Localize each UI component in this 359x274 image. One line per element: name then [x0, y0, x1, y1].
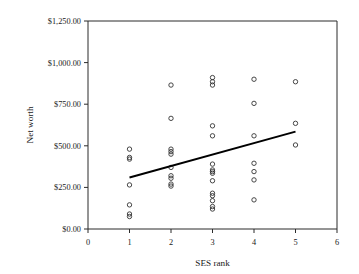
data-point [252, 178, 256, 182]
y-tick-label: $500.00 [54, 142, 81, 151]
data-point [252, 169, 256, 173]
y-axis-title: Net worth [25, 106, 35, 143]
data-point [210, 199, 214, 203]
data-point [169, 83, 173, 87]
data-point [293, 80, 297, 84]
data-point [252, 161, 256, 165]
y-tick-label: $1,000.00 [48, 59, 81, 68]
y-axis: $0.00$250.00$500.00$750.00$1,000.00$1,25… [48, 17, 88, 234]
data-point [210, 179, 214, 183]
x-tick-label: 1 [127, 238, 131, 247]
data-point [127, 147, 131, 151]
data-point [127, 183, 131, 187]
scatter-plot-figure: $0.00$250.00$500.00$750.00$1,000.00$1,25… [0, 0, 359, 274]
y-tick-label: $1,250.00 [48, 17, 81, 26]
plot-canvas: $0.00$250.00$500.00$750.00$1,000.00$1,25… [0, 0, 359, 274]
data-point [252, 101, 256, 105]
data-point [210, 124, 214, 128]
y-tick-label: $750.00 [54, 100, 81, 109]
x-tick-label: 0 [86, 238, 90, 247]
x-tick-label: 2 [169, 238, 173, 247]
data-point [293, 143, 297, 147]
x-tick-label: 5 [293, 238, 297, 247]
regression-line [130, 132, 296, 178]
x-axis: 0123456 [86, 229, 339, 247]
data-point [210, 162, 214, 166]
data-point [293, 121, 297, 125]
x-tick-label: 4 [252, 238, 257, 247]
y-tick-label: $250.00 [54, 183, 81, 192]
data-point [252, 134, 256, 138]
data-point [127, 203, 131, 207]
x-tick-label: 3 [210, 238, 214, 247]
y-tick-label: $0.00 [62, 225, 81, 234]
data-point [210, 134, 214, 138]
data-points [127, 75, 297, 218]
data-point [252, 198, 256, 202]
x-axis-title: SES rank [195, 258, 230, 268]
data-point [169, 116, 173, 120]
x-tick-label: 6 [335, 238, 339, 247]
data-point [252, 77, 256, 81]
